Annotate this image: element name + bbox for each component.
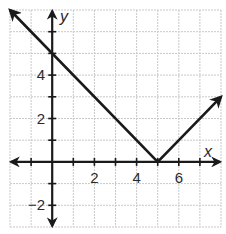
x-tick-label: 2	[90, 169, 98, 186]
absolute-value-graph: 24642−2 x y	[0, 0, 226, 234]
x-tick-label: 4	[132, 169, 140, 186]
x-tick-label: 6	[175, 169, 183, 186]
y-tick-label: −2	[28, 196, 45, 213]
y-tick-label: 2	[37, 110, 45, 127]
y-axis-label: y	[59, 8, 69, 25]
y-tick-label: 4	[37, 66, 45, 83]
x-axis-label: x	[203, 143, 213, 160]
